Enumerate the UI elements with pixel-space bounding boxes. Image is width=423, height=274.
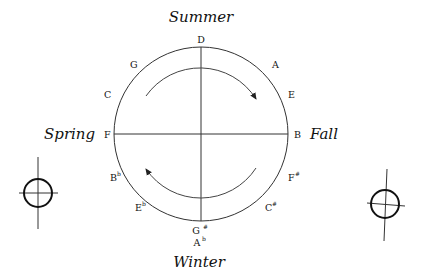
circled-cross-icon-left bbox=[19, 157, 58, 229]
svg-text:B: B bbox=[110, 172, 117, 183]
svg-text:b: b bbox=[202, 235, 206, 242]
svg-text:#: # bbox=[203, 223, 208, 230]
circle-of-fifths-diagram: Summer Fall Winter Spring D A E B F # C … bbox=[0, 0, 423, 274]
svg-text:G: G bbox=[192, 225, 200, 236]
svg-text:#: # bbox=[295, 170, 300, 177]
note-e: E bbox=[288, 89, 295, 100]
svg-text:b: b bbox=[117, 170, 121, 177]
svg-text:A: A bbox=[193, 237, 201, 248]
season-fall: Fall bbox=[309, 125, 338, 143]
note-g: G bbox=[130, 59, 138, 70]
note-d: D bbox=[197, 34, 205, 45]
note-f: F bbox=[104, 129, 111, 140]
svg-text:F: F bbox=[288, 172, 295, 183]
note-e-flat: E b bbox=[135, 200, 146, 213]
season-winter: Winter bbox=[173, 253, 226, 271]
note-b-flat: B b bbox=[110, 170, 121, 183]
circled-cross-icon-right bbox=[367, 169, 405, 241]
note-c: C bbox=[104, 89, 111, 100]
svg-text:E: E bbox=[135, 202, 142, 213]
season-summer: Summer bbox=[169, 8, 234, 26]
season-spring: Spring bbox=[44, 125, 95, 143]
note-f-sharp: F # bbox=[288, 170, 300, 183]
note-b: B bbox=[294, 129, 301, 140]
svg-text:b: b bbox=[142, 200, 146, 207]
svg-text:#: # bbox=[272, 200, 277, 207]
note-c-sharp: C # bbox=[265, 200, 277, 213]
note-a: A bbox=[271, 59, 279, 70]
note-a-flat: A b bbox=[193, 235, 206, 248]
